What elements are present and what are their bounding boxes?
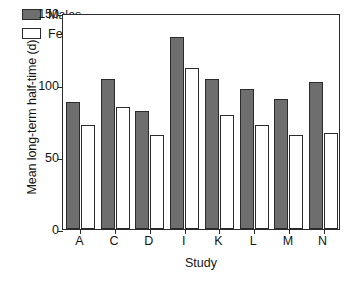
x-tick-label-C: C: [110, 234, 119, 248]
legend-swatch-females-icon: [22, 28, 41, 39]
y-tick-label: 100: [19, 79, 59, 93]
x-tick-label-M: M: [283, 234, 293, 248]
bar-M-males: [274, 99, 288, 229]
x-tick-label-I: I: [182, 234, 185, 248]
plot-area: 050100150: [62, 14, 340, 230]
bar-D-males: [135, 111, 149, 229]
bar-C-females: [116, 107, 130, 229]
bar-I-males: [170, 37, 184, 229]
x-tick-label-K: K: [214, 234, 222, 248]
x-tick-label-D: D: [144, 234, 153, 248]
bar-L-males: [240, 89, 254, 229]
y-tick-label: 150: [19, 7, 59, 21]
bar-C-males: [101, 79, 115, 229]
bar-L-females: [255, 125, 269, 229]
bar-I-females: [185, 68, 199, 229]
bar-N-males: [309, 82, 323, 229]
bar-A-females: [81, 125, 95, 229]
x-tick-label-L: L: [250, 234, 257, 248]
bar-K-females: [220, 115, 234, 229]
plot-inner: 050100150: [63, 15, 339, 229]
bar-D-females: [150, 135, 164, 229]
y-tick-label: 0: [19, 223, 59, 237]
bar-M-females: [289, 135, 303, 229]
x-axis-label: Study: [62, 256, 340, 270]
y-tick-label: 50: [19, 151, 59, 165]
y-axis-label: Mean long-term half-time (d): [25, 17, 39, 217]
x-tick-label-A: A: [75, 234, 83, 248]
x-tick-label-N: N: [318, 234, 327, 248]
bar-A-males: [66, 102, 80, 229]
bar-chart-figure: Mean long-term half-time (d) Males Femal…: [0, 0, 364, 282]
bar-N-females: [324, 133, 338, 229]
bar-K-males: [205, 79, 219, 229]
